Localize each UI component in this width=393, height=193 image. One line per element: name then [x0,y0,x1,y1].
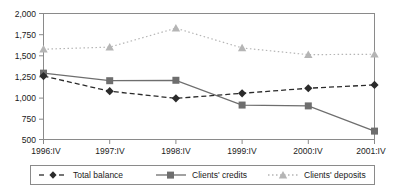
chart-container: 2,000 1,750 1,500 1,250 1,000 750 500 19… [0,0,393,193]
legend-label-total-balance: Total balance [73,170,123,180]
series-line [44,73,375,131]
series-clients-credits [40,70,378,135]
line-chart: 2,000 1,750 1,500 1,250 1,000 750 500 19… [0,0,393,193]
square-marker-icon [305,102,312,109]
triangle-marker-icon [304,51,312,58]
triangle-marker-icon [39,45,47,52]
legend-item-total-balance[interactable]: Total balance [39,170,123,180]
diamond-marker-icon [238,89,246,97]
x-tick-label-1997: 1997:IV [95,146,125,156]
x-axis-ticks [44,140,375,144]
y-tick-label-500: 500 [22,135,36,145]
x-tick-label-2001: 2001:IV [356,146,386,156]
diamond-marker-icon [304,84,312,92]
chart-legend: Total balance Clients' credits Clients' … [31,166,375,185]
x-tick-label-1996: 1996:IV [31,146,61,156]
series-layer [39,24,378,135]
series-clients-deposits [39,24,378,58]
y-tick-label-750: 750 [22,114,36,124]
plot-axes [43,13,375,140]
triangle-marker-icon [370,50,378,57]
x-axis-labels: 1996:IV 1997:IV 1998:IV 1999:IV 2000:IV … [31,146,386,156]
legend-label-clients-credits: Clients' credits [192,170,247,180]
square-marker-icon [167,172,174,179]
x-tick-label-2000: 2000:IV [293,146,323,156]
y-axis-labels: 2,000 1,750 1,500 1,250 1,000 750 500 [15,9,37,145]
legend-label-clients-deposits: Clients' deposits [304,170,366,180]
diamond-marker-icon [106,87,114,95]
y-tick-label-1500: 1,500 [15,51,37,61]
series-total-balance [39,72,378,102]
y-tick-label-1000: 1,000 [15,93,37,103]
triangle-marker-icon [172,24,180,31]
square-marker-icon [239,102,246,109]
diamond-marker-icon [49,171,56,179]
y-tick-label-1750: 1,750 [15,30,37,40]
x-tick-label-1999: 1999:IV [227,146,257,156]
x-tick-label-1998: 1998:IV [161,146,191,156]
diamond-marker-icon [172,94,180,102]
y-tick-label-1250: 1,250 [15,72,37,82]
square-marker-icon [371,128,378,135]
square-marker-icon [106,77,113,84]
legend-item-clients-credits[interactable]: Clients' credits [156,170,247,180]
diamond-marker-icon [370,81,378,89]
square-marker-icon [172,77,179,84]
y-tick-label-2000: 2,000 [15,9,37,19]
legend-item-clients-deposits[interactable]: Clients' deposits [268,170,366,180]
series-line [44,28,375,54]
